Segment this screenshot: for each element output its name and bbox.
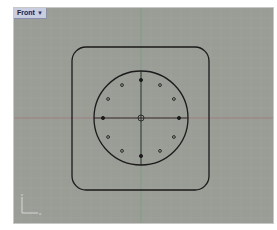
bolt-hole-point	[159, 84, 162, 87]
viewport-title-tab[interactable]: Front ▼	[14, 8, 47, 19]
axes-widget-z-label: z	[21, 192, 23, 197]
bolt-hole-point	[177, 116, 180, 119]
bolt-hole-point	[173, 98, 176, 101]
front-viewport[interactable]: xz Front ▼	[13, 7, 274, 224]
bolt-hole-point	[121, 84, 124, 87]
bolt-hole-point	[159, 150, 162, 153]
bolt-hole-point	[107, 98, 110, 101]
axes-widget-x-label: x	[39, 211, 41, 216]
bolt-hole-point	[121, 150, 124, 153]
bolt-hole-point	[173, 136, 176, 139]
bolt-hole-point	[139, 154, 142, 157]
viewport-canvas[interactable]: xz	[14, 8, 274, 224]
dropdown-arrow-icon[interactable]: ▼	[37, 8, 43, 18]
bolt-hole-point	[101, 116, 104, 119]
viewport-title: Front	[17, 8, 35, 18]
bolt-hole-point	[107, 136, 110, 139]
bolt-hole-point	[139, 78, 142, 81]
